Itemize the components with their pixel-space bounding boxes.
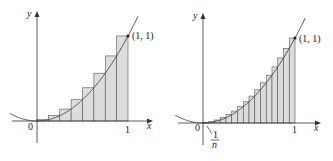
left-x-label: x [146,120,152,131]
riemann-bar [117,36,128,121]
y-axis-arrow-icon [35,11,40,17]
riemann-bar [71,100,82,121]
right-origin-label: 0 [195,122,200,133]
y-axis-arrow-icon [201,13,206,19]
point-1-1 [293,36,296,39]
left-y-label: y [26,8,32,19]
point-1-1 [126,34,129,37]
riemann-bar [284,48,290,123]
riemann-bar [272,67,278,123]
riemann-bar [83,88,94,121]
left-origin-label: 0 [28,121,33,132]
left-one-label: 1 [125,124,130,135]
left-point-label: (1, 1) [132,30,154,42]
right-y-label: y [192,10,198,21]
riemann-bar [278,58,284,123]
frac-pointer-arrow [207,126,212,134]
riemann-bar [243,102,249,123]
riemann-bar [249,96,255,123]
right-one-label: 1 [292,124,297,135]
right-point-label: (1, 1) [299,33,321,45]
frac-denominator: n [212,139,217,150]
right-x-label: x [313,122,319,133]
riemann-sum-figure: y x 0 1 (1, 1) y x 0 1 (1, 1) 1 n [0,0,333,161]
riemann-bar [289,38,295,123]
